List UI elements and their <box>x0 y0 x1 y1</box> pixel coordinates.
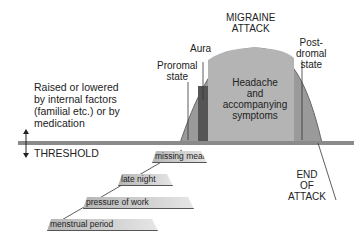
desc-line-2: by internal factors <box>34 93 120 105</box>
headache-line-2: and <box>220 88 290 99</box>
end-line-2: OF <box>288 180 326 191</box>
migraine-attack-title: MIGRAINE ATTACK <box>226 12 275 34</box>
trigger-pressure-of-work: pressure of work <box>83 197 194 209</box>
postdromal-line-1: Post- <box>296 37 327 48</box>
end-line-1: END <box>288 169 326 180</box>
prodromal-line-1: Proromal <box>157 60 198 71</box>
title-line-1: MIGRAINE <box>226 12 275 23</box>
headache-line-3: accompanying <box>220 99 290 110</box>
desc-line-4: medication <box>34 117 120 129</box>
prodromal-label: Proromal state <box>157 60 198 82</box>
desc-line-1: Raised or lowered <box>34 81 120 93</box>
headache-line-1: Headache <box>220 77 290 88</box>
postdromal-label: Post- dromal state <box>296 37 327 70</box>
headache-label: Headache and accompanying symptoms <box>220 77 290 121</box>
end-of-attack-label: END OF ATTACK <box>288 169 326 202</box>
trigger-menstrual-period: menstrual period <box>47 219 158 231</box>
desc-line-3: (familial etc.) or by <box>34 105 120 117</box>
threshold-bar <box>18 141 354 145</box>
threshold-description: Raised or lowered by internal factors (f… <box>34 81 120 129</box>
trigger-missing-meal: missing meal <box>152 151 207 163</box>
trigger-late-night: late night <box>118 174 173 186</box>
threshold-label: THRESHOLD <box>34 148 99 159</box>
headache-line-4: symptoms <box>220 110 290 121</box>
aura-label: Aura <box>190 43 211 54</box>
end-line-3: ATTACK <box>288 191 326 202</box>
postdromal-line-2: dromal <box>296 48 327 59</box>
postdromal-line-3: state <box>296 59 327 70</box>
prodromal-line-2: state <box>157 71 198 82</box>
title-line-2: ATTACK <box>226 23 275 34</box>
